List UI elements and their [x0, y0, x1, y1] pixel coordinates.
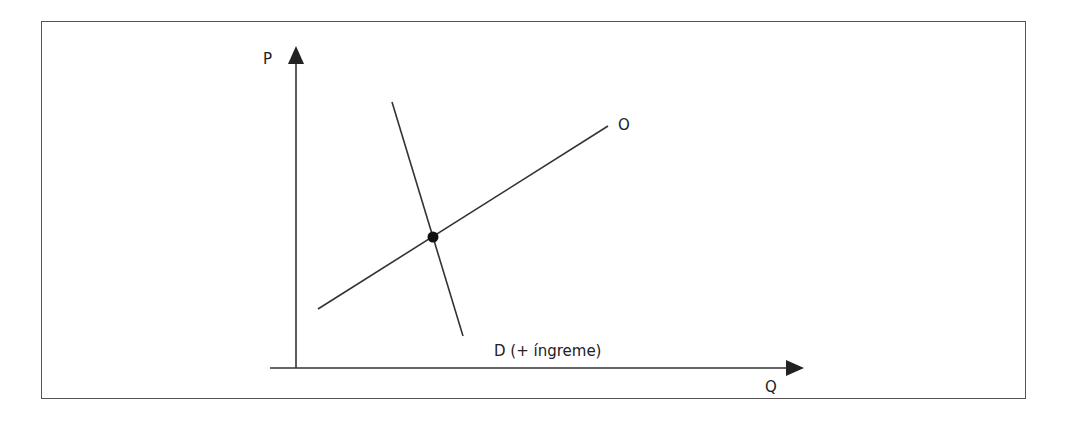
equilibrium-point — [428, 232, 439, 243]
x-axis-arrow-icon — [786, 360, 804, 376]
x-axis-label: Q — [765, 378, 777, 396]
supply-curve — [318, 126, 608, 309]
supply-curve-label: O — [618, 116, 630, 134]
y-axis-arrow-icon — [288, 46, 304, 64]
demand-curve-label: D (+ íngreme) — [494, 342, 601, 360]
supply-demand-diagram: P Q O D (+ íngreme) — [0, 0, 1067, 422]
demand-curve — [392, 102, 463, 336]
y-axis-label: P — [263, 50, 272, 68]
